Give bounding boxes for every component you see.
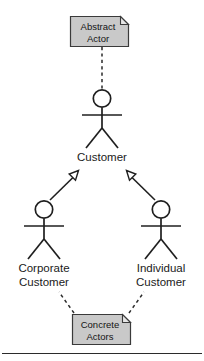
individual-customer-actor-head-icon <box>152 201 169 218</box>
customer-actor-left-leg-icon <box>86 128 102 148</box>
customer-actor-head-icon <box>93 90 110 107</box>
concrete-actors-note-line1: Concrete <box>81 319 120 330</box>
diagram-canvas: Abstract Actor Customer <box>0 0 204 361</box>
concrete-actors-note-line2: Actors <box>87 331 114 342</box>
concrete-actors-note-connector-right <box>129 292 144 313</box>
abstract-actor-note-line2: Actor <box>87 33 109 44</box>
corporate-customer-actor-label-line1: Corporate <box>18 262 69 274</box>
individual-customer-actor[interactable]: Individual Customer <box>136 201 186 288</box>
gen-corporate-to-customer-line <box>50 177 74 200</box>
corporate-customer-actor-label-line2: Customer <box>19 276 69 288</box>
concrete-actors-note-fold-icon <box>123 315 131 323</box>
corporate-customer-actor-right-leg-icon <box>44 239 60 259</box>
abstract-actor-note-line1: Abstract <box>81 21 116 32</box>
gen-corporate-to-customer[interactable] <box>50 171 79 201</box>
gen-individual-to-customer[interactable] <box>127 171 156 201</box>
customer-actor-label: Customer <box>77 151 127 163</box>
individual-customer-actor-left-leg-icon <box>145 239 161 259</box>
individual-customer-actor-right-leg-icon <box>161 239 177 259</box>
individual-customer-actor-label-line2: Customer <box>136 276 186 288</box>
customer-actor-right-leg-icon <box>102 128 118 148</box>
individual-customer-actor-label-line1: Individual <box>137 262 186 274</box>
abstract-actor-note-fold-icon <box>121 17 129 25</box>
corporate-customer-actor-left-leg-icon <box>28 239 44 259</box>
corporate-customer-actor-head-icon <box>35 201 52 218</box>
abstract-actor-note[interactable]: Abstract Actor <box>71 17 129 47</box>
corporate-customer-actor[interactable]: Corporate Customer <box>18 201 69 288</box>
concrete-actors-note[interactable]: Concrete Actors <box>73 315 131 345</box>
gen-individual-to-customer-line <box>132 177 156 200</box>
customer-actor[interactable]: Customer <box>77 90 127 163</box>
uml-actor-generalization-diagram: Abstract Actor Customer <box>0 0 204 361</box>
concrete-actors-note-connector-left <box>59 292 74 313</box>
